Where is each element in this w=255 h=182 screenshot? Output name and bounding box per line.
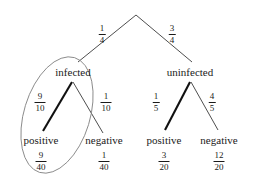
edge-label-infected: 1 4 xyxy=(99,24,106,45)
joint-probability-uninfected-negative: 12 20 xyxy=(214,151,225,172)
joint-probability-uninfected-positive: 3 20 xyxy=(159,151,170,172)
edge-label-uninfected-positive: 1 5 xyxy=(153,92,160,113)
edge-label-infected-positive: 9 10 xyxy=(35,92,46,113)
node-infected-negative: negative xyxy=(85,134,122,146)
probability-tree-diagram: 1 4 3 4 infected uninfected 9 10 1 10 1 … xyxy=(0,0,255,182)
edge-infected-positive xyxy=(43,82,72,131)
node-uninfected: uninfected xyxy=(167,66,213,78)
edge-label-uninfected-negative: 4 5 xyxy=(209,92,216,113)
joint-probability-infected-negative: 1 40 xyxy=(99,151,110,172)
edge-root-infected xyxy=(78,15,136,62)
node-uninfected-positive: positive xyxy=(147,134,182,146)
node-infected: infected xyxy=(55,66,90,78)
node-infected-positive: positive xyxy=(24,134,59,146)
node-uninfected-negative: negative xyxy=(200,134,237,146)
edge-label-uninfected: 3 4 xyxy=(169,24,176,45)
edge-uninfected-positive xyxy=(165,82,190,130)
edge-label-infected-negative: 1 10 xyxy=(101,92,112,113)
joint-probability-infected-positive: 9 40 xyxy=(36,151,47,172)
edge-root-uninfected xyxy=(136,15,192,62)
